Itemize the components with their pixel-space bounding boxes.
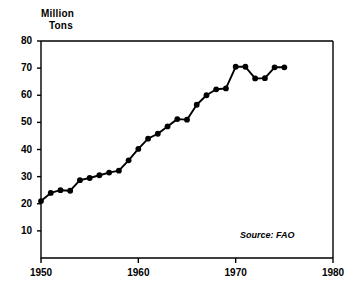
data-point [116,168,122,174]
data-point [272,64,278,70]
x-tick-label: 1950 [21,267,61,278]
data-point [194,102,200,108]
data-point [174,116,180,122]
y-tick-label: 60 [8,89,32,100]
data-point [165,124,171,130]
y-tick-label: 20 [8,198,32,209]
y-tick-label: 30 [8,171,32,182]
data-point [204,92,210,98]
data-point [48,190,54,196]
data-point [252,76,258,82]
x-tick-label: 1970 [216,267,256,278]
y-tick-label: 50 [8,116,32,127]
y-tick-label: 40 [8,144,32,155]
x-tick-label: 1960 [118,267,158,278]
source-annotation: Source: FAO [240,230,295,240]
line-chart-plot [0,0,361,296]
data-point [213,86,219,92]
x-tick-label: 1980 [313,267,353,278]
data-point [262,75,268,81]
data-point [97,172,103,178]
data-point [126,157,132,163]
y-tick-label: 70 [8,62,32,73]
data-point [77,177,83,183]
data-point [38,198,44,204]
y-tick-label: 80 [8,35,32,46]
data-point [243,64,249,70]
chart-background [0,0,361,296]
data-point [106,170,112,176]
y-axis-title-line2: Tons [49,20,73,31]
data-point [155,131,161,137]
data-point [223,86,229,92]
data-point [145,136,151,142]
data-point [135,146,141,152]
data-point [184,117,190,123]
y-tick-label: 10 [8,225,32,236]
data-point [67,188,73,194]
y-axis-title-line1: Million [41,8,74,19]
data-point [58,187,64,193]
chart-figure: Million Tons Source: FAO 102030405060708… [0,0,361,296]
data-point [87,175,93,181]
data-point [281,64,287,70]
data-point [233,64,239,70]
